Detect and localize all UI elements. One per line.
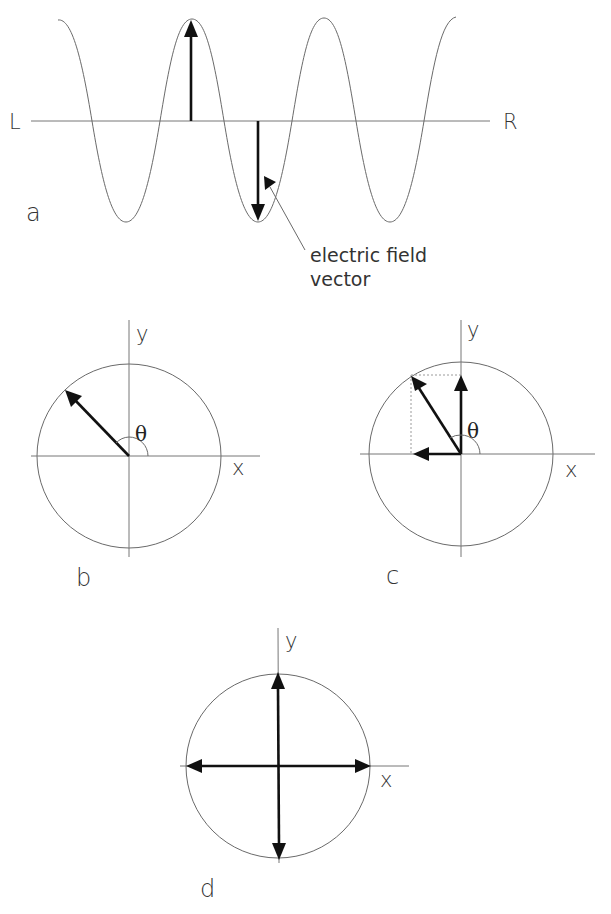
arrowhead-right-icon bbox=[355, 759, 371, 773]
arrowhead-up-icon bbox=[184, 20, 198, 37]
panel-c-label: c bbox=[386, 562, 399, 590]
panel-b-label: b bbox=[76, 564, 91, 592]
x-label: x bbox=[565, 458, 577, 482]
theta-label: θ bbox=[135, 422, 147, 446]
arrowhead-up-icon bbox=[454, 375, 468, 391]
arrowhead-left-icon bbox=[186, 759, 202, 773]
annotation-line-1: electric field bbox=[310, 244, 427, 266]
arrowhead-down-icon bbox=[251, 204, 265, 221]
panel-a-label: a bbox=[26, 199, 41, 227]
y-label: y bbox=[467, 318, 479, 342]
annotation-line-2: vector bbox=[310, 268, 370, 290]
panel-d: y x d bbox=[180, 628, 409, 903]
panel-c: θ y x c bbox=[360, 318, 595, 590]
left-label: L bbox=[9, 110, 21, 134]
panel-d-label: d bbox=[200, 875, 215, 903]
arrowhead-left-icon bbox=[413, 447, 429, 461]
field-vector bbox=[73, 398, 129, 456]
y-label: y bbox=[136, 322, 148, 346]
theta-label: θ bbox=[467, 419, 479, 443]
polarization-figure: L R a electric field vector θ y x b bbox=[0, 0, 611, 914]
y-label: y bbox=[285, 629, 297, 653]
panel-a: L R a electric field vector bbox=[9, 17, 518, 290]
field-vector bbox=[417, 385, 461, 454]
x-label: x bbox=[232, 456, 244, 480]
annotation-pointer bbox=[270, 187, 305, 250]
right-label: R bbox=[503, 110, 518, 134]
x-label: x bbox=[380, 768, 392, 792]
panel-b: θ y x b bbox=[31, 320, 260, 592]
